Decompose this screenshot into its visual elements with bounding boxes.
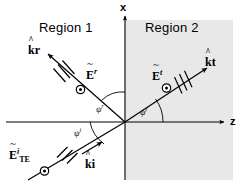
incident-e-field-label: EiTE <box>9 148 30 164</box>
incidence-angle-arc <box>90 122 104 144</box>
reflected-ray-hash-marks <box>54 61 75 83</box>
region-2-label: Region 2 <box>145 21 199 34</box>
incidence-angle-label: ψi <box>74 127 81 138</box>
reflection-angle-arc <box>102 92 126 101</box>
e-tilde-accent: E <box>86 69 94 81</box>
k-hat-accent: k <box>28 44 35 56</box>
incident-polarization-dot-icon <box>40 167 48 175</box>
reflected-e-field-label: Er <box>86 68 97 81</box>
transmitted-k-vector-label: kt <box>205 56 216 68</box>
e-tilde-accent: E <box>9 149 17 161</box>
region-2-shading <box>125 20 233 180</box>
reflected-polarization-dot-icon <box>76 85 84 93</box>
transmission-angle-label: ψt <box>140 106 147 117</box>
reflected-k-vector-label: kr <box>28 44 40 56</box>
wave-interface-diagram: Region 1 Region 2 x z kr Er kt Et ki EiT… <box>0 0 249 193</box>
k-hat-accent: k <box>205 56 212 68</box>
diagram-canvas <box>0 0 249 193</box>
region-1-label: Region 1 <box>39 21 93 34</box>
e-tilde-accent: E <box>152 70 160 82</box>
incident-k-vector-label: ki <box>85 158 95 170</box>
x-axis-label: x <box>120 2 126 13</box>
transmitted-polarization-dot-icon <box>162 84 170 92</box>
reflection-angle-label: ψr <box>96 103 104 114</box>
transmitted-e-field-label: Et <box>152 69 162 82</box>
k-hat-accent: k <box>85 158 92 170</box>
z-axis-label: z <box>230 116 236 127</box>
